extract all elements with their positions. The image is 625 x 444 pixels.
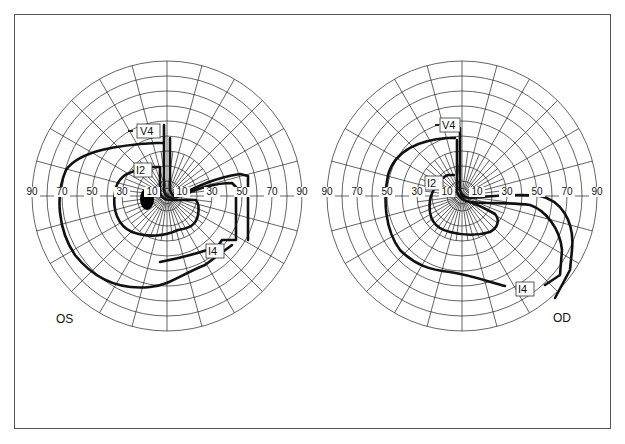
svg-text:70: 70	[266, 186, 278, 197]
svg-text:50: 50	[236, 186, 248, 197]
svg-text:90: 90	[591, 186, 603, 197]
svg-text:50: 50	[531, 186, 543, 197]
label-v4-os: V4	[137, 124, 160, 138]
label-i4-os: I4	[206, 244, 224, 258]
svg-text:10: 10	[176, 186, 188, 197]
svg-text:I2: I2	[427, 177, 436, 189]
svg-text:30: 30	[411, 186, 423, 197]
label-i2-os: I2	[134, 163, 152, 177]
svg-text:70: 70	[561, 186, 573, 197]
isopter-i4-od	[457, 140, 562, 285]
svg-text:I4: I4	[208, 245, 217, 257]
eye-label-od: OD	[553, 311, 571, 325]
svg-text:10: 10	[441, 186, 453, 197]
svg-text:90: 90	[26, 186, 38, 197]
svg-text:70: 70	[351, 186, 363, 197]
svg-text:I2: I2	[136, 164, 145, 176]
svg-text:10: 10	[471, 186, 483, 197]
svg-text:30: 30	[206, 186, 218, 197]
svg-text:90: 90	[321, 186, 333, 197]
perimetry-figure: V4 I2 I4 OS V4 I2 I4 OD	[0, 0, 625, 444]
svg-text:30: 30	[116, 186, 128, 197]
svg-text:30: 30	[501, 186, 513, 197]
svg-text:90: 90	[296, 186, 308, 197]
svg-text:50: 50	[86, 186, 98, 197]
isopters-od: V4 I2 I4 OD	[386, 118, 573, 325]
svg-text:10: 10	[146, 186, 158, 197]
svg-text:V4: V4	[140, 125, 153, 137]
svg-text:70: 70	[56, 186, 68, 197]
label-v4-od: V4	[440, 118, 460, 132]
svg-text:50: 50	[381, 186, 393, 197]
svg-text:I4: I4	[518, 283, 527, 295]
eye-label-os: OS	[56, 312, 73, 326]
svg-text:V4: V4	[442, 119, 455, 131]
label-i4-od: I4	[516, 282, 534, 296]
